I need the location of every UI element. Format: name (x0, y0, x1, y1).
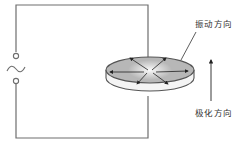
terminal-top (13, 53, 18, 58)
top-wire (16, 5, 148, 60)
piezo-disc (106, 57, 194, 91)
bottom-wire (16, 83, 148, 138)
vibration-direction-label: 振动方向 (195, 17, 232, 29)
disc-center-highlight (128, 60, 172, 80)
polarization-direction-label: 极化方向 (195, 106, 232, 118)
ac-source (7, 53, 25, 83)
terminal-bottom (13, 78, 18, 83)
vibration-leader-line (181, 32, 196, 60)
ac-wave-icon (7, 66, 25, 72)
